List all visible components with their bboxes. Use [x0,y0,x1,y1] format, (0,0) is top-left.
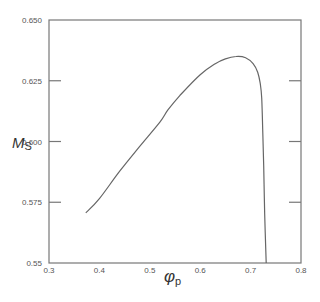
x-tick-label: 0.7 [245,266,257,275]
x-axis-label-main: φ [164,267,175,286]
x-tick-label: 0.6 [195,266,207,275]
y-tick-label: 0.625 [22,77,43,86]
x-tick-label: 0.5 [144,266,156,275]
chart: 0.550.5750.6000.6250.6500.30.40.50.60.70… [0,0,320,302]
x-tick-label: 0.4 [94,266,106,275]
ticks: 0.550.5750.6000.6250.6500.30.40.50.60.70… [22,16,307,275]
x-axis-label-sub: p [175,275,181,287]
y-tick-label: 0.575 [22,198,43,207]
x-tick-label: 0.8 [295,266,307,275]
series-group [86,56,266,263]
x-axis-label: φp [164,267,181,287]
series-line-ms [86,56,266,263]
y-axis-label-sub: S [25,140,32,152]
y-tick-label: 0.55 [26,259,42,268]
y-axis-label-main: M [12,134,25,151]
x-tick-label: 0.3 [43,266,55,275]
y-tick-label: 0.650 [22,16,43,25]
